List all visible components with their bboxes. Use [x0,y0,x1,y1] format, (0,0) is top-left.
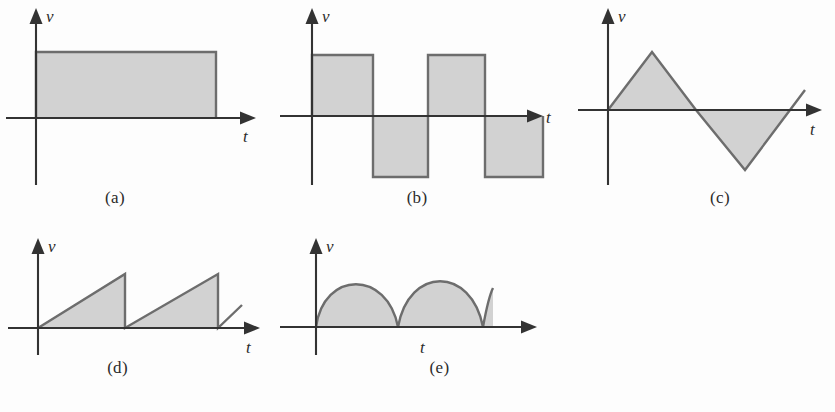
x-axis-arrow-e [521,321,537,334]
x-axis-arrow-c [806,104,822,117]
panel-d: v t (d) [0,230,275,360]
waveform-area-e-hump1 [316,284,398,327]
waveform-chart-e: v t [272,230,562,360]
waveform-area-b-neg2 [485,116,543,177]
y-axis-label-a: v [46,7,54,26]
y-axis-arrow-c [602,8,615,24]
y-axis-label-d: v [48,237,56,256]
x-axis-label-a: t [243,127,249,146]
waveform-area-b-neg1 [373,116,428,177]
panel-caption-e: (e) [322,358,557,378]
y-axis-arrow-d [32,238,45,254]
waveform-chart-b: v t [272,0,557,195]
panel-caption-b: (b) [302,188,532,208]
panel-caption-c: (c) [605,188,835,208]
y-axis-label-c: v [618,7,626,26]
panel-a: v t (a) [0,0,270,195]
panel-b: v t (b) [272,0,557,195]
waveform-area-c-neg [696,110,790,170]
panel-caption-a: (a) [0,188,230,208]
waveform-chart-c: v t [560,0,835,195]
panel-e: v t (e) [272,230,562,360]
y-axis-label-e: v [326,237,334,256]
panel-c: v t (c) [560,0,835,195]
figure-sheet: v t (a) v t (b) [0,0,835,412]
x-axis-label-e: t [420,338,426,357]
waveform-chart-a: v t [0,0,270,195]
panel-caption-d: (d) [0,358,235,378]
x-axis-label-b: t [546,108,552,127]
y-axis-arrow-a [30,8,43,24]
y-axis-arrow-e [310,238,323,254]
waveform-area-b-pos2 [428,55,485,116]
y-axis-label-b: v [322,7,330,26]
x-axis-label-d: t [246,338,252,357]
x-axis-label-c: t [810,120,816,139]
x-axis-arrow-a [240,112,256,125]
waveform-area-e-hump2 [398,281,483,327]
y-axis-arrow-b [306,8,319,24]
waveform-area-b-pos1 [312,55,373,116]
waveform-area-a [36,52,216,118]
waveform-chart-d: v t [0,230,275,360]
x-axis-arrow-d [244,322,260,335]
waveform-area-c-pos [608,52,696,110]
